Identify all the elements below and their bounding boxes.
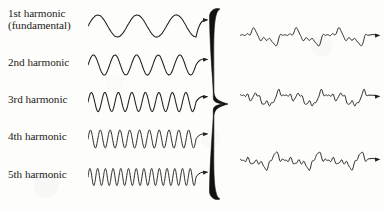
label-line-primary: 4th harmonic <box>8 130 67 142</box>
waveform-path <box>88 55 207 75</box>
waveform-harmonic-4 <box>88 124 212 154</box>
right-curly-brace-icon <box>204 6 234 202</box>
brace-path <box>209 8 228 199</box>
waveform-path <box>240 89 379 106</box>
label-harmonic-5: 5th harmonic <box>8 169 67 181</box>
label-harmonic-2: 2nd harmonic <box>8 57 69 69</box>
label-line-primary: 3rd harmonic <box>8 93 67 105</box>
label-harmonic-1: 1st harmonic(fundamental) <box>8 8 71 32</box>
label-harmonic-4: 4th harmonic <box>8 131 67 143</box>
waveform-path <box>88 92 207 111</box>
figure-canvas: 1st harmonic(fundamental)2nd harmonic3rd… <box>0 0 383 210</box>
composite-wave-middle <box>240 82 383 114</box>
label-line-primary: 2nd harmonic <box>8 56 69 68</box>
waveform-path <box>88 130 207 148</box>
waveform-path <box>88 168 207 185</box>
waveform-harmonic-2 <box>88 50 212 80</box>
composite-wave-top <box>240 22 383 52</box>
waveform-harmonic-5 <box>88 162 212 192</box>
waveform-path <box>240 152 379 171</box>
waveform-path <box>240 28 379 47</box>
waveform-harmonic-3 <box>88 87 212 117</box>
label-line-primary: 1st harmonic <box>8 7 66 19</box>
label-harmonic-3: 3rd harmonic <box>8 94 67 106</box>
waveform-path <box>88 15 207 37</box>
label-line-primary: 5th harmonic <box>8 168 67 180</box>
waveform-harmonic-1 <box>88 10 212 42</box>
composite-wave-bottom <box>240 145 383 177</box>
label-line-secondary: (fundamental) <box>8 20 71 32</box>
